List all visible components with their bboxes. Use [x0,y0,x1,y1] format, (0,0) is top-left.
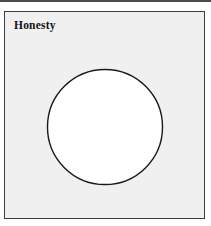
figure-panel: Honesty [4,11,205,219]
top-divider-rule [0,0,211,2]
circle-diagram [5,12,206,220]
circle-shape [48,70,163,185]
figure-root: Honesty [0,0,211,226]
